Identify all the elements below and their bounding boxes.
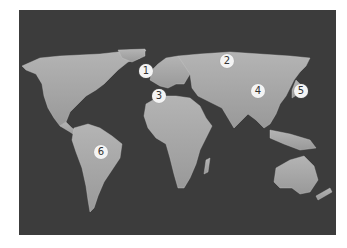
marker-label: 5 xyxy=(298,85,304,96)
map-marker-3[interactable]: 3 xyxy=(152,89,166,103)
marker-label: 1 xyxy=(143,65,149,76)
map-marker-5[interactable]: 5 xyxy=(294,84,308,98)
map-marker-4[interactable]: 4 xyxy=(251,84,265,98)
marker-label: 3 xyxy=(156,90,162,101)
new-zealand xyxy=(316,188,332,200)
africa xyxy=(144,96,212,188)
world-map: 1 2 3 4 5 6 xyxy=(19,10,336,235)
continents xyxy=(19,10,336,235)
marker-label: 6 xyxy=(98,146,104,157)
australia xyxy=(274,156,318,194)
marker-label: 2 xyxy=(224,55,230,66)
south-america xyxy=(72,124,122,212)
madagascar xyxy=(204,158,210,174)
north-america xyxy=(22,50,146,126)
map-marker-2[interactable]: 2 xyxy=(220,54,234,68)
map-marker-6[interactable]: 6 xyxy=(94,145,108,159)
map-marker-1[interactable]: 1 xyxy=(139,64,153,78)
southeast-asia xyxy=(270,130,316,150)
marker-label: 4 xyxy=(255,85,261,96)
